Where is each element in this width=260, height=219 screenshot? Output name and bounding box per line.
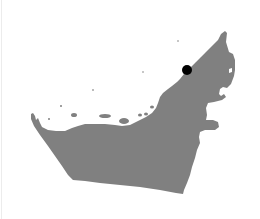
location-marker-icon[interactable] <box>182 65 192 75</box>
uae-landmass <box>31 31 235 194</box>
uae-map <box>0 0 260 219</box>
